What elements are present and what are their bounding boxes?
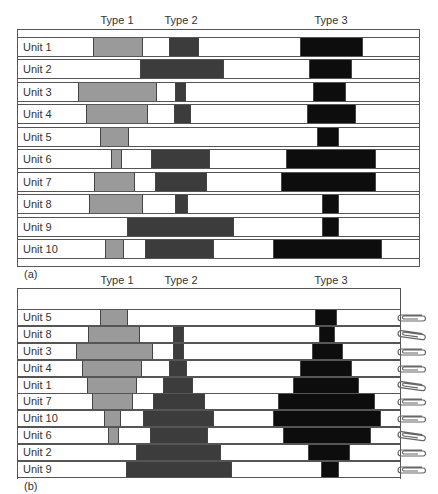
bar-type1 xyxy=(89,195,143,213)
paper-clip-icon xyxy=(396,464,426,476)
bar-type3 xyxy=(309,60,352,78)
unit-row: Unit 8 xyxy=(18,326,400,343)
bar-type2 xyxy=(155,173,207,191)
unit-row: Unit 4 xyxy=(18,360,400,377)
unit-row: Unit 6 xyxy=(18,149,419,169)
unit-row: Unit 2 xyxy=(18,59,419,79)
bar-type1 xyxy=(111,150,122,168)
bar-type3 xyxy=(300,361,352,376)
bar-type3 xyxy=(321,462,339,477)
bar-type3 xyxy=(286,150,376,168)
column-label-type2: Type 2 xyxy=(164,14,197,26)
bar-type2 xyxy=(163,378,193,393)
bar-type2 xyxy=(169,361,187,376)
paper-clip-icon xyxy=(396,329,426,341)
paper-clip-icon xyxy=(396,413,426,425)
unit-row: Unit 5 xyxy=(18,127,419,147)
paper-clip-icon xyxy=(396,447,426,459)
unit-label: Unit 7 xyxy=(23,176,52,188)
column-label-type3-b: Type 3 xyxy=(314,274,347,286)
column-label-type1-b: Type 1 xyxy=(100,274,133,286)
bar-type3 xyxy=(313,83,346,101)
paper-clip-icon xyxy=(396,380,426,392)
bar-type2 xyxy=(169,38,199,56)
unit-label: Unit 2 xyxy=(23,446,52,458)
bar-type2 xyxy=(145,240,214,258)
unit-row: Unit 1 xyxy=(18,37,419,57)
unit-label: Unit 9 xyxy=(23,221,52,233)
bar-type3 xyxy=(281,173,376,191)
bar-type1 xyxy=(76,344,153,359)
bar-type2 xyxy=(174,105,191,123)
bar-type3 xyxy=(315,310,337,325)
unit-row: Unit 10 xyxy=(18,410,400,427)
unit-label: Unit 3 xyxy=(23,86,52,98)
bar-type2 xyxy=(175,83,186,101)
unit-label: Unit 10 xyxy=(23,412,58,424)
bar-type2 xyxy=(150,428,208,443)
unit-row: Unit 2 xyxy=(18,444,400,461)
bar-type2 xyxy=(126,462,232,477)
unit-label: Unit 6 xyxy=(23,153,52,165)
unit-row: Unit 9 xyxy=(18,461,400,478)
bar-type3 xyxy=(293,378,359,393)
column-label-type1: Type 1 xyxy=(100,14,133,26)
bar-type3 xyxy=(322,218,339,236)
unit-row: Unit 7 xyxy=(18,393,400,410)
unit-label: Unit 2 xyxy=(23,63,52,75)
unit-label: Unit 1 xyxy=(23,41,52,53)
panel-tag-b: (b) xyxy=(24,480,37,492)
bar-type2 xyxy=(143,411,214,426)
bar-type3 xyxy=(322,195,339,213)
seriation-frame-a: Unit 1Unit 2Unit 3Unit 4Unit 5Unit 6Unit… xyxy=(17,29,420,267)
unit-row: Unit 3 xyxy=(18,82,419,102)
bar-type2 xyxy=(153,394,205,409)
bar-type2 xyxy=(151,150,210,168)
bar-type3 xyxy=(319,327,335,342)
bar-type3 xyxy=(278,394,375,409)
bar-type3 xyxy=(307,105,356,123)
bar-type2 xyxy=(173,344,184,359)
unit-row: Unit 9 xyxy=(18,217,419,237)
paper-clip-icon xyxy=(396,312,426,324)
unit-label: Unit 4 xyxy=(23,108,52,120)
bar-type1 xyxy=(78,83,157,101)
bar-type2 xyxy=(175,195,188,213)
bar-type1 xyxy=(94,173,135,191)
bar-type3 xyxy=(300,38,363,56)
bar-type2 xyxy=(173,327,184,342)
bar-type1 xyxy=(92,394,133,409)
bar-type1 xyxy=(86,105,148,123)
bar-type3 xyxy=(273,411,381,426)
unit-row: Unit 7 xyxy=(18,172,419,192)
bar-type3 xyxy=(283,428,371,443)
bar-type1 xyxy=(88,327,140,342)
bar-type3 xyxy=(312,344,343,359)
bar-type3 xyxy=(308,445,350,460)
unit-label: Unit 3 xyxy=(23,345,52,357)
unit-row: Unit 3 xyxy=(18,343,400,360)
bar-type3 xyxy=(317,128,339,146)
paper-clip-icon xyxy=(396,430,426,442)
panel-tag-a: (a) xyxy=(24,268,37,280)
unit-label: Unit 7 xyxy=(23,395,52,407)
unit-label: Unit 10 xyxy=(23,243,58,255)
unit-row: Unit 5 xyxy=(18,309,400,326)
unit-label: Unit 5 xyxy=(23,131,52,143)
bar-type1 xyxy=(87,378,137,393)
unit-row: Unit 4 xyxy=(18,104,419,124)
unit-row: Unit 8 xyxy=(18,194,419,214)
bar-type2 xyxy=(127,218,234,236)
bar-type2 xyxy=(140,60,224,78)
seriation-frame-b: Unit 5Unit 8Unit 3Unit 4Unit 1Unit 7Unit… xyxy=(17,288,401,479)
unit-label: Unit 5 xyxy=(23,311,52,323)
bar-type1 xyxy=(100,310,128,325)
unit-label: Unit 6 xyxy=(23,429,52,441)
bar-type2 xyxy=(136,445,221,460)
bar-type1 xyxy=(105,240,124,258)
bar-type1 xyxy=(82,361,142,376)
unit-label: Unit 4 xyxy=(23,362,52,374)
bar-type1 xyxy=(104,411,121,426)
unit-label: Unit 8 xyxy=(23,328,52,340)
paper-clip-icon xyxy=(396,346,426,358)
